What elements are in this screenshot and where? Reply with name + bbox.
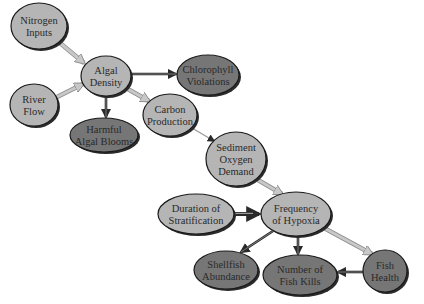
arrow-frequency_of_hypoxia-to-shellfish_abundance xyxy=(241,231,273,252)
arrow-duration_of_stratification-to-frequency_of_hypoxia xyxy=(234,213,259,214)
node-label: River xyxy=(22,94,46,105)
arrow-river_flow-to-algal_density xyxy=(57,84,83,97)
node-label: Algal xyxy=(94,65,117,76)
node-label: Number of xyxy=(277,264,323,275)
node-shellfish-abundance: ShellfishAbundance xyxy=(194,251,260,291)
node-algal-density: AlgalDensity xyxy=(81,56,133,98)
node-label: Stratification xyxy=(169,215,225,226)
node-label: Frequency xyxy=(274,203,319,214)
node-label: Shellfish xyxy=(207,259,245,270)
node-label: Duration of xyxy=(172,203,221,214)
node-fish-health: FishHealth xyxy=(363,250,409,294)
node-label: Sediment xyxy=(216,142,256,153)
node-harmful-algal-blooms: HarmfulAlgal Blooms xyxy=(70,118,140,154)
node-label: Density xyxy=(90,77,123,88)
node-number-of-fish-kills: Number ofFish Kills xyxy=(263,255,339,297)
node-nitrogen: NitrogenInputs xyxy=(11,3,69,51)
node-label: Flow xyxy=(23,106,45,117)
node-duration-of-stratification: Duration ofStratification xyxy=(158,194,236,236)
arrow-sediment_oxygen_demand-to-frequency_of_hypoxia xyxy=(258,180,282,194)
node-label: Harmful xyxy=(86,124,122,135)
node-carbon-production: CarbonProduction xyxy=(143,94,199,138)
node-label: Inputs xyxy=(26,27,52,38)
node-label: Oxygen xyxy=(219,154,253,165)
node-label: Demand xyxy=(218,166,254,177)
node-label: Carbon xyxy=(155,104,187,115)
node-label: Fish Kills xyxy=(279,276,320,287)
nodes: NitrogenInputsAlgalDensityRiverFlowChlor… xyxy=(10,3,409,297)
arrow-algal_density-to-carbon_production xyxy=(126,88,149,101)
diagram-canvas: NitrogenInputsAlgalDensityRiverFlowChlor… xyxy=(0,0,424,304)
node-label: Chlorophyll xyxy=(183,64,234,75)
node-label: Abundance xyxy=(202,271,250,282)
node-label: Violations xyxy=(186,76,229,87)
node-label: Algal Blooms xyxy=(75,136,134,147)
causal-diagram: NitrogenInputsAlgalDensityRiverFlowChlor… xyxy=(0,0,424,304)
node-label: Nitrogen xyxy=(20,15,58,26)
arrow-nitrogen-to-algal_density xyxy=(60,43,84,63)
node-label: Fish xyxy=(376,260,395,271)
node-chlorophyll: ChlorophyllViolations xyxy=(177,55,241,97)
node-label: of Hypoxia xyxy=(272,215,320,226)
node-river-flow: RiverFlow xyxy=(10,84,60,128)
arrow-frequency_of_hypoxia-to-fish_health xyxy=(324,228,372,254)
arrow-carbon_production-to-sediment_oxygen_demand xyxy=(192,128,214,141)
node-label: Health xyxy=(371,272,400,283)
node-sediment-oxygen-demand: SedimentOxygenDemand xyxy=(206,132,268,188)
node-label: Production xyxy=(147,116,194,127)
